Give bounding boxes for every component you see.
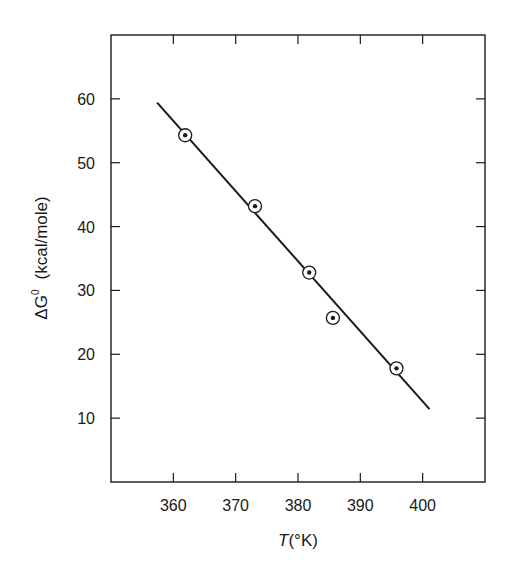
x-ticks: 360370380390400	[160, 35, 436, 514]
y-tick-label: 50	[77, 155, 95, 172]
x-tick-label: 380	[285, 497, 312, 514]
y-axis-label-var: ΔG	[32, 295, 51, 320]
chart-svg: 360370380390400 102030405060 T(°K) ΔG0(k…	[0, 0, 512, 576]
x-tick-label: 360	[160, 497, 187, 514]
data-point	[179, 129, 192, 142]
y-axis-label-unit: (kcal/mole)	[32, 196, 51, 279]
y-tick-label: 10	[77, 410, 95, 427]
data-point	[248, 200, 261, 213]
y-tick-label: 20	[77, 346, 95, 363]
x-axis-label-unit: (°K)	[288, 531, 317, 550]
x-tick-label: 400	[409, 497, 436, 514]
y-tick-label: 60	[77, 91, 95, 108]
y-tick-label: 40	[77, 219, 95, 236]
y-axis-label: ΔG0(kcal/mole)	[30, 196, 51, 319]
data-point-dot	[394, 366, 398, 370]
x-tick-label: 370	[222, 497, 249, 514]
x-axis-label: T(°K)	[278, 531, 318, 550]
data-point-dot	[253, 204, 257, 208]
data-point-dot	[307, 270, 311, 274]
x-tick-label: 390	[347, 497, 374, 514]
fit-line-group	[157, 103, 429, 410]
data-point	[326, 311, 339, 324]
y-ticks: 102030405060	[77, 91, 485, 427]
fit-line	[157, 103, 429, 410]
data-point	[303, 266, 316, 279]
data-point	[390, 362, 403, 375]
y-tick-label: 30	[77, 282, 95, 299]
data-point-dot	[331, 316, 335, 320]
y-axis-label-sup: 0	[30, 289, 41, 295]
plot-frame	[111, 35, 485, 482]
data-point-dot	[183, 133, 187, 137]
